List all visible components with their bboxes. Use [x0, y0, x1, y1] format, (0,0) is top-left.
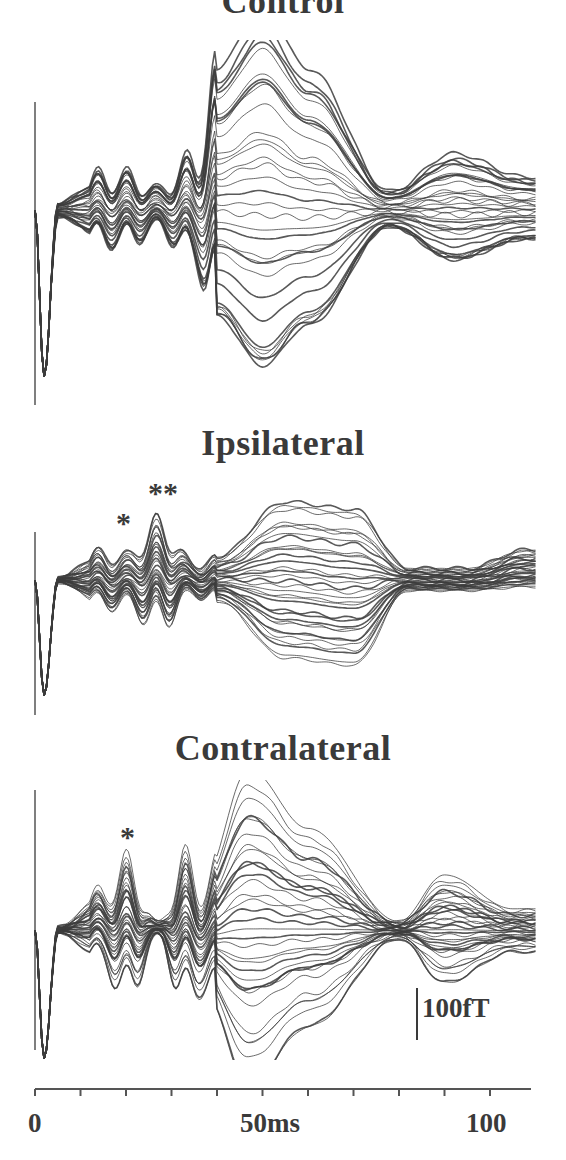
time-axis: [0, 1080, 566, 1110]
tick-label-100: 100: [466, 1108, 507, 1139]
ipsilateral-waveform-plot: [0, 480, 566, 720]
panel-title-contralateral: Contralateral: [0, 727, 566, 769]
sensor-trace: [35, 48, 536, 376]
significance-marker-contra-20ms: *: [120, 822, 135, 852]
tick-label-50ms: 50ms: [240, 1108, 300, 1139]
significance-marker-ipsi-20ms: *: [116, 508, 131, 538]
sensor-trace: [35, 576, 536, 695]
panel-title-control: Control: [0, 0, 566, 22]
tick-label-0: 0: [28, 1108, 42, 1139]
sensor-trace: [35, 573, 536, 695]
panel-title-ipsilateral: Ipsilateral: [0, 422, 566, 464]
control-waveform-plot: [0, 40, 566, 420]
scale-bar: [416, 988, 418, 1040]
scale-bar-label: 100fT: [422, 993, 490, 1024]
sensor-trace: [35, 191, 536, 377]
sensor-trace: [35, 152, 536, 377]
significance-marker-ipsi-27ms: **: [148, 478, 178, 508]
sensor-trace: [35, 535, 536, 695]
sensor-trace: [35, 210, 536, 377]
